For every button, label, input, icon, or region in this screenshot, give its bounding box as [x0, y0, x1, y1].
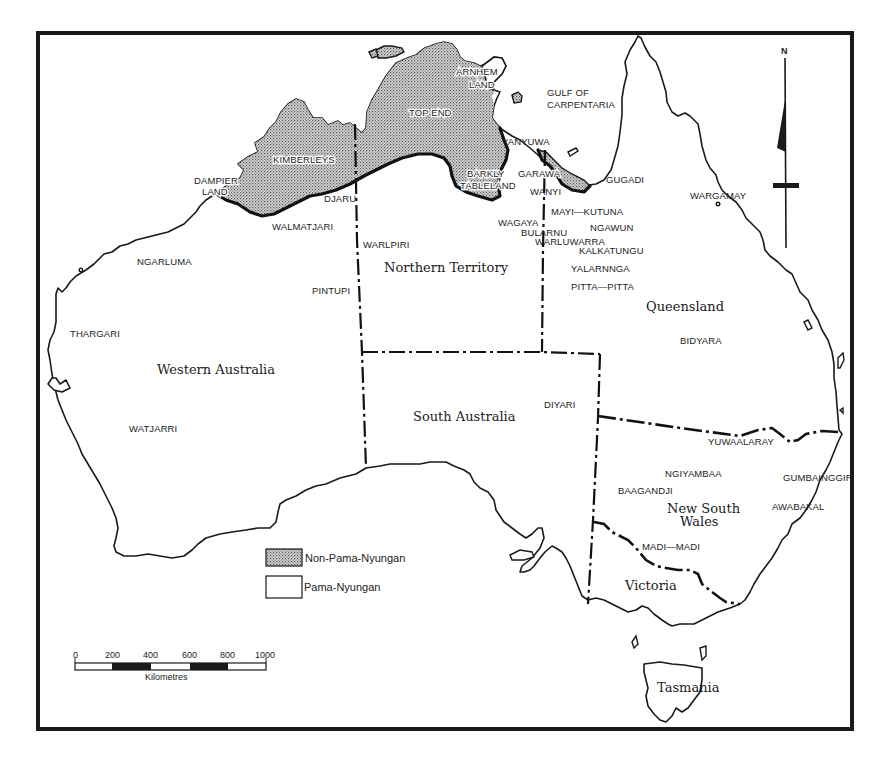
australia-language-map: N Non-Pama-Nyungan Pama-Nyungan 0 200 40… — [0, 0, 883, 765]
gulf-label-line2: CARPENTARIA — [547, 99, 616, 110]
scale-bar: 0 200 400 600 800 1000 Kilometres — [73, 650, 275, 682]
region-victoria: Victoria — [624, 578, 677, 593]
label-arnhem-line1: ARNHEM — [456, 66, 498, 77]
region-south-australia: South Australia — [413, 409, 516, 424]
legend-swatch-non-pama-nyungan — [266, 549, 302, 566]
lang-thargari: THARGARI — [70, 328, 120, 339]
region-northern-territory: Northern Territory — [384, 260, 509, 275]
lang-mayi-kutuna: MAYI—KUTUNA — [551, 206, 624, 217]
lang-awabakal: AWABAKAL — [772, 501, 824, 512]
moreton-island — [840, 408, 843, 413]
label-garawa: GARAWA — [518, 168, 561, 179]
legend-label-non-pama-nyungan: Non-Pama-Nyungan — [305, 552, 405, 564]
lang-baagandji: BAAGANDJI — [618, 485, 673, 496]
label-barkly-line1: BARKLY — [467, 168, 505, 179]
scale-tick-400: 400 — [143, 650, 158, 660]
groote-eylandt — [512, 92, 522, 103]
label-dampier-line1: DAMPIER — [194, 175, 238, 186]
label-top-end: TOP END — [409, 107, 452, 118]
king-island — [632, 636, 638, 648]
lang-djaru: DJARU — [324, 193, 356, 204]
lang-gumbainggir: GUMBAINGGIR — [783, 472, 853, 483]
flinders-island — [700, 646, 706, 660]
melville-island — [376, 46, 404, 58]
lang-kalkatungu: KALKATUNGU — [579, 245, 644, 256]
scale-tick-200: 200 — [105, 650, 120, 660]
label-barkly-line2: TABLELAND — [460, 180, 516, 191]
lang-yanyuwa: YANYUWA — [502, 136, 550, 147]
lang-yuwaalaray: YUWAALARAY — [708, 436, 774, 447]
lang-ngiyambaa: NGIYAMBAA — [665, 468, 722, 479]
region-tasmania: Tasmania — [657, 680, 720, 695]
lang-walmatjari: WALMATJARI — [272, 221, 333, 232]
gulf-label-line1: GULF OF — [547, 87, 589, 98]
label-arnhem-line2: LAND — [469, 79, 495, 90]
kangaroo-island — [510, 550, 534, 560]
lang-gugadi: GUGADI — [606, 174, 644, 185]
label-dampier-line2: LAND — [202, 186, 228, 197]
lang-pintupi: PINTUPI — [312, 285, 350, 296]
lang-wargamay: WARGAMAY — [690, 190, 747, 201]
region-western-australia: Western Australia — [157, 362, 275, 377]
lang-madi-madi: MADI—MADI — [642, 541, 700, 552]
lang-ngawun: NGAWUN — [590, 222, 634, 233]
lang-pitta-pitta: PITTA—PITTA — [571, 281, 635, 292]
barrow-island — [79, 268, 83, 272]
mornington-island — [568, 148, 578, 156]
legend-swatch-pama-nyungan — [266, 576, 302, 598]
wargamay-island — [716, 202, 720, 206]
scale-tick-1000: 1000 — [255, 650, 275, 660]
lang-diyari: DIYARI — [544, 399, 576, 410]
lang-watjarri: WATJARRI — [129, 423, 177, 434]
north-label: N — [781, 46, 788, 56]
legend-label-pama-nyungan: Pama-Nyungan — [304, 581, 380, 593]
lang-wanyi: WANYI — [530, 186, 561, 197]
scale-unit: Kilometres — [145, 672, 188, 682]
lang-warlpiri: WARLPIRI — [363, 239, 409, 250]
bathurst-island — [369, 49, 378, 58]
scale-tick-600: 600 — [182, 650, 197, 660]
region-nsw-line2: Wales — [680, 514, 719, 529]
fraser-island — [838, 353, 844, 368]
lang-yalarnnga: YALARNNGA — [571, 263, 630, 274]
north-arrow: N — [773, 46, 799, 248]
legend: Non-Pama-Nyungan Pama-Nyungan — [266, 549, 405, 598]
lang-ngarluma: NGARLUMA — [137, 256, 192, 267]
lang-bidyara: BIDYARA — [680, 335, 722, 346]
scale-tick-0: 0 — [73, 650, 78, 660]
label-kimberleys: KIMBERLEYS — [273, 154, 335, 165]
region-queensland: Queensland — [646, 299, 724, 314]
scale-tick-800: 800 — [220, 650, 235, 660]
